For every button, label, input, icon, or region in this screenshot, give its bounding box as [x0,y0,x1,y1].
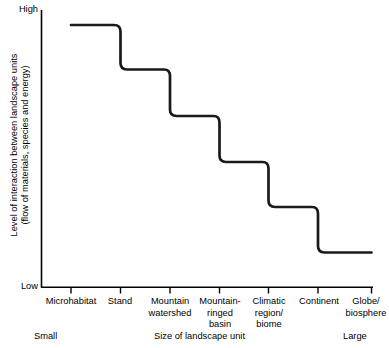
x-axis-tick-label-stand: Stand [108,296,132,308]
x-axis-ticks-group [71,288,372,294]
x-axis-extent-label-large: Large [343,330,367,342]
x-tick-label-line: Globe/ [346,296,387,308]
x-axis-tick-label-globe-biosphere: Globe/ biosphere [346,296,387,319]
x-axis-label: Size of landscape unit [154,330,245,342]
x-axis-tick-label-continent: Continent [299,296,339,308]
x-tick-label-line: Continent [299,296,339,308]
x-tick-label-line: watershed [149,308,192,320]
x-axis-tick-label-mountain-watershed: Mountain watershed [149,296,192,319]
x-axis-footer-row: Small Size of landscape unit Large [0,330,389,344]
x-axis-tick-label-microhabitat: Microhabitat [46,296,97,308]
data-series-step-line [71,25,372,253]
y-axis-tick-label-high: High [10,4,38,14]
x-axis-tick-label-climatic-region-biome: Climatic region/ biome [252,296,285,331]
axes-group [41,10,373,288]
x-tick-label-line: biosphere [346,308,387,320]
x-tick-label-line: Microhabitat [46,296,97,308]
x-axis-tick-label-mountain-ringed-basin: Mountain- ringed basin [199,296,240,331]
x-tick-label-line: Mountain [149,296,192,308]
x-tick-label-line: Climatic [252,296,285,308]
x-tick-label-line: region/ [252,308,285,320]
chart-figure: Level of interaction between landscape u… [0,0,389,348]
x-tick-label-line: ringed [199,308,240,320]
x-axis-extent-label-small: Small [34,330,57,342]
x-tick-label-line: Mountain- [199,296,240,308]
y-axis-tick-label-low: Low [8,281,38,291]
x-tick-label-line: Stand [108,296,132,308]
step-line-path [71,25,372,253]
